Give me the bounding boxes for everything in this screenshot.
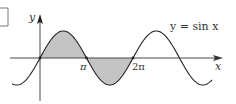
curve-label: y = sin x	[169, 20, 219, 33]
tick-label-pi: π	[79, 61, 87, 72]
frame-box	[0, 8, 8, 26]
y-axis-label: y	[28, 11, 36, 24]
sine-graph-figure: y x π 2π y = sin x	[0, 0, 236, 104]
sine-plot: y x π 2π y = sin x	[0, 0, 236, 104]
point-2pi	[132, 57, 135, 60]
x-axis-label: x	[215, 60, 222, 73]
tick-label-2pi: 2π	[132, 61, 145, 72]
point-origin	[39, 57, 42, 60]
point-pi	[85, 57, 88, 60]
